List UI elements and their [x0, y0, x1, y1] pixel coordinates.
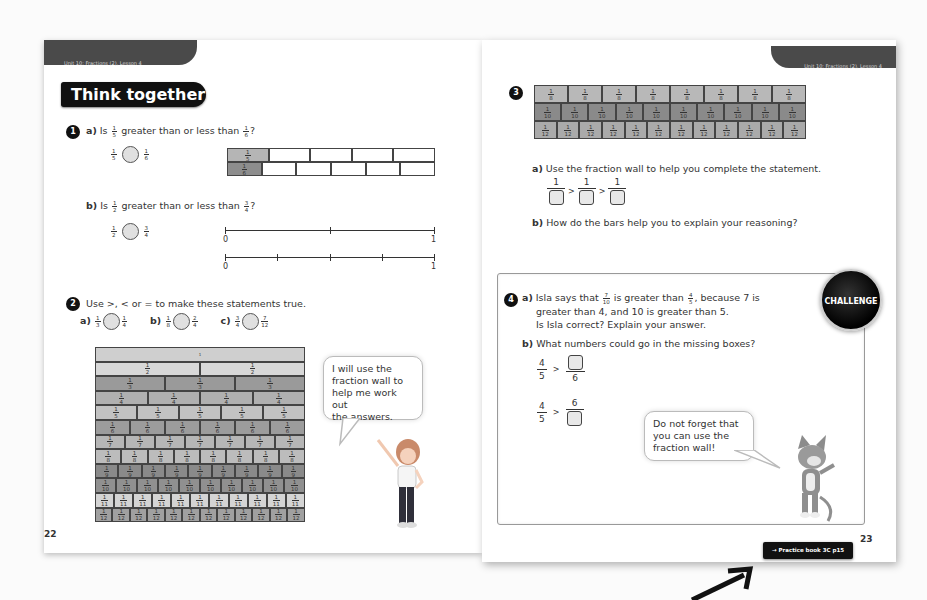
fraction-wall-cell: 16 [95, 420, 130, 435]
fraction-wall-cell: 19 [165, 464, 188, 479]
fraction: 16 [145, 421, 151, 434]
fraction-wall-cell: 112 [95, 508, 112, 523]
fraction-wall-cell: 110 [263, 478, 284, 493]
fraction: 110 [291, 479, 298, 492]
q3a-label: a) [532, 163, 543, 174]
number-line-quarters: 01 [225, 252, 434, 266]
fraction: 112 [258, 508, 265, 521]
fraction: 110 [598, 106, 605, 119]
fraction-bar-row: 110110110110110110110110110110 [534, 103, 806, 121]
fraction-wall-cell: 19 [212, 464, 235, 479]
fraction-wall-row: 191919191919191919 [95, 464, 305, 479]
fraction-wall-row: 131313 [95, 376, 305, 391]
compare-circle-input[interactable] [122, 146, 139, 163]
compare-circle-input[interactable] [122, 223, 139, 240]
bar-fifths: 15 [227, 148, 435, 162]
fraction-bar-cell: 110 [779, 103, 806, 121]
fraction-wall-cell: 14 [148, 391, 201, 406]
missing-denominator-box[interactable] [549, 190, 564, 205]
page-number-right: 23 [860, 534, 873, 544]
cat-character-illustration [784, 435, 844, 525]
fraction: 13 [267, 377, 273, 390]
tick-mark [277, 254, 278, 261]
fraction-bar-cell: 112 [783, 121, 806, 139]
q1a-compare: 15 16 [110, 146, 150, 163]
fraction-wall-cell: 110 [179, 478, 200, 493]
fraction: 6 [566, 355, 585, 383]
fraction-bar-cell: 18 [602, 85, 636, 103]
practice-book-link[interactable]: → Practice book 3C p15 [763, 542, 853, 559]
fraction: 110 [680, 106, 687, 119]
fraction-bar-cell: 110 [534, 103, 561, 121]
unit-header-left: Unit 10: Fractions (2), Lesson 4 [44, 40, 197, 65]
fraction-wall: 1121213131314141414151515151516161616161… [95, 347, 305, 522]
fraction: 15 [281, 406, 287, 419]
fraction: 112 [564, 124, 571, 137]
fraction-wall-cell: 16 [270, 420, 305, 435]
fraction-wall-cell: 111 [95, 493, 114, 508]
fraction-wall-cell: 111 [286, 493, 305, 508]
fraction-wall-cell: 17 [245, 435, 275, 450]
fraction: 112 [188, 508, 195, 521]
missing-numerator-box[interactable] [568, 355, 583, 370]
fraction: 18 [263, 450, 269, 463]
q2-item-label: a) [80, 315, 94, 326]
fraction: 16 [144, 148, 150, 161]
bar-sixths: 16 [227, 162, 435, 176]
compare-circle-input[interactable] [242, 313, 259, 330]
fraction-bar-cell: 110 [561, 103, 588, 121]
fraction: 110 [789, 106, 796, 119]
fraction-wall-cell: 110 [221, 478, 242, 493]
fraction: 710 [603, 292, 610, 305]
fraction-bar-cell: 112 [534, 121, 557, 139]
fraction: 112 [542, 124, 549, 137]
fraction-bar-row: 112112112112112112112112112112112112 [534, 121, 806, 139]
bar-cell: 15 [227, 148, 269, 162]
fraction: 18 [166, 315, 172, 328]
fraction-wall-cell: 110 [137, 478, 158, 493]
compare-circle-input[interactable] [173, 313, 190, 330]
q4a-text: is greater than [614, 292, 684, 303]
fraction-wall-row: 1 [95, 347, 305, 362]
fraction-bar-cell: 112 [579, 121, 602, 139]
tick-mark [225, 227, 226, 234]
tick-mark [434, 254, 435, 261]
fraction-wall-cell: 18 [95, 449, 121, 464]
number-line-start: 0 [223, 235, 228, 244]
missing-denominator-box[interactable] [579, 190, 594, 205]
missing-denominator-box[interactable] [610, 190, 625, 205]
fraction-bar-cell: 112 [557, 121, 580, 139]
fraction-wall-cell: 18 [200, 449, 226, 464]
fraction: 18 [289, 450, 295, 463]
fraction-bar-cell: 110 [588, 103, 615, 121]
fraction: 112 [632, 124, 639, 137]
q1a-text-mid: greater than or less than [121, 125, 239, 136]
compare-circle-input[interactable] [103, 313, 120, 330]
missing-denominator-box[interactable] [567, 411, 582, 426]
bubble-tail [338, 418, 378, 448]
fraction-wall-cell: 14 [200, 391, 253, 406]
fraction: 18 [548, 88, 554, 101]
fraction: 112 [118, 508, 125, 521]
fraction: 111 [120, 494, 127, 507]
fraction-wall-cell: 19 [258, 464, 281, 479]
fraction: 111 [235, 494, 242, 507]
q1b-suffix: ? [250, 200, 255, 211]
fraction-wall-row: 111111111111111111111111111111111 [95, 493, 305, 508]
fraction-wall-cell: 17 [95, 435, 125, 450]
fraction-wall-row: 110110110110110110110110110110 [95, 478, 305, 493]
q3-fraction-bars: 1818181818181818110110110110110110110110… [534, 85, 806, 139]
page-number-left: 22 [44, 529, 57, 539]
fraction-bar-cell: 112 [647, 121, 670, 139]
fraction-bar-cell: 110 [697, 103, 724, 121]
bubble-tail [734, 450, 784, 472]
fraction-bar-cell: 18 [738, 85, 772, 103]
fraction: 112 [205, 508, 212, 521]
right-page: Unit 10: Fractions (2), Lesson 4 3 18181… [482, 40, 896, 562]
tick-mark [330, 254, 331, 261]
tick-mark [225, 254, 226, 261]
fraction: 18 [650, 88, 656, 101]
fraction: 18 [616, 88, 622, 101]
fraction-bar-cell: 112 [715, 121, 738, 139]
bar-cell [393, 148, 435, 162]
